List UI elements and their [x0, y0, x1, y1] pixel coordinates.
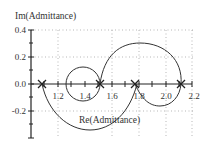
svg-text:1.8: 1.8: [133, 91, 145, 101]
svg-text:2.2: 2.2: [188, 91, 199, 101]
upper-arc: [100, 43, 181, 84]
y-axis-label: Im(Admittance): [15, 11, 76, 22]
x-axis-label: Re(Admittance): [79, 115, 140, 126]
svg-text:1.6: 1.6: [106, 91, 118, 101]
svg-text:-0.2: -0.2: [12, 106, 26, 116]
svg-text:1.4: 1.4: [79, 91, 91, 101]
svg-text:1.2: 1.2: [52, 91, 63, 101]
y-tick-labels: 0.4 0.2 0.0 -0.2: [12, 25, 27, 116]
admittance-plot: Im(Admittance) Re(Admittance) 0.4 0.2 0.…: [0, 0, 209, 146]
svg-text:0.2: 0.2: [15, 52, 26, 62]
svg-text:0.4: 0.4: [15, 25, 27, 35]
svg-text:2.0: 2.0: [160, 91, 172, 101]
svg-text:0.0: 0.0: [15, 79, 27, 89]
